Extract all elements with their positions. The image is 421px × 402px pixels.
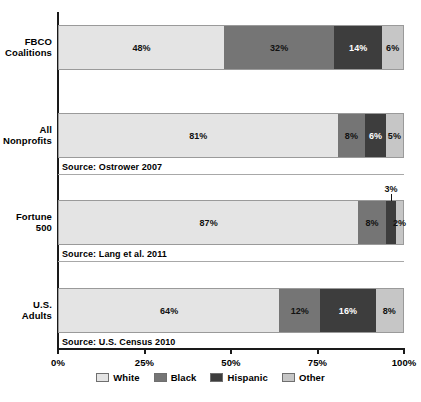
legend-label: Black <box>171 372 197 383</box>
stacked-bar-4: 64%12%16%8% <box>58 288 404 333</box>
row-label-2: AllNonprofits <box>0 124 52 147</box>
x-axis-tick-label: 50% <box>221 357 240 368</box>
stacked-bar-1: 48%32%14%6% <box>58 25 404 70</box>
row-label-line1: U.S. <box>0 299 52 311</box>
segment-value-label: 16% <box>339 306 357 316</box>
segment-value-label: 6% <box>386 43 399 53</box>
bar-segment-black: 8% <box>358 201 386 244</box>
x-axis-tick-label: 25% <box>135 357 154 368</box>
segment-value-label: 64% <box>160 306 178 316</box>
source-note: Source: U.S. Census 2010 <box>62 337 175 347</box>
segment-value-label: 8% <box>365 218 378 228</box>
bar-segment-white: 48% <box>59 26 224 69</box>
segment-value-label: 14% <box>349 43 367 53</box>
row-label-1: FBCOCoalitions <box>0 36 52 59</box>
legend-swatch-icon <box>96 373 109 382</box>
bar-segment-white: 81% <box>59 114 338 157</box>
legend-label: Other <box>299 372 325 383</box>
legend-item-other[interactable]: Other <box>282 372 325 383</box>
bar-segment-black: 12% <box>279 289 320 332</box>
segment-value-label: 87% <box>199 218 217 228</box>
row-label-line2: Nonprofits <box>0 135 52 147</box>
legend-item-white[interactable]: White <box>96 372 139 383</box>
x-axis-tick-label: 75% <box>308 357 327 368</box>
row-label-line2: 500 <box>0 222 52 234</box>
legend-swatch-icon <box>154 373 167 382</box>
segment-value-label: 8% <box>383 306 396 316</box>
row-label-4: U.S.Adults <box>0 299 52 322</box>
x-axis-end-cap <box>403 348 405 354</box>
segment-callout-label: 3% <box>384 184 397 194</box>
segment-value-label: 2% <box>393 218 406 228</box>
legend-swatch-icon <box>210 373 223 382</box>
bar-segment-white: 64% <box>59 289 279 332</box>
source-note: Source: Ostrower 2007 <box>62 162 162 172</box>
segment-value-label: 12% <box>291 306 309 316</box>
x-axis-tick-label: 100% <box>392 357 417 368</box>
bar-segment-other: 6% <box>382 26 403 69</box>
bar-segment-black: 8% <box>338 114 366 157</box>
source-divider <box>58 261 404 262</box>
legend-item-hispanic[interactable]: Hispanic <box>210 372 267 383</box>
x-axis-tick <box>144 348 146 354</box>
segment-value-label: 81% <box>189 131 207 141</box>
legend-item-black[interactable]: Black <box>154 372 197 383</box>
legend-label: White <box>113 372 139 383</box>
segment-value-label: 8% <box>345 131 358 141</box>
legend-swatch-icon <box>282 373 295 382</box>
bar-segment-hispanic: 14% <box>334 26 382 69</box>
x-axis-tick <box>230 348 232 354</box>
stacked-bar-3: 87%8%3%2% <box>58 200 404 245</box>
x-axis-end-cap <box>57 348 59 354</box>
bar-segment-black: 32% <box>224 26 334 69</box>
bar-segment-other: 2% <box>396 201 403 244</box>
source-divider <box>58 174 404 175</box>
row-label-line1: All <box>0 124 52 136</box>
segment-value-label: 5% <box>388 131 401 141</box>
stacked-bar-2: 81%8%6%5% <box>58 113 404 158</box>
callout-leader-line <box>391 194 392 201</box>
row-label-line2: Adults <box>0 310 52 322</box>
figure-caption <box>8 392 413 402</box>
bar-segment-other: 8% <box>376 289 404 332</box>
row-label-3: Fortune500 <box>0 211 52 234</box>
source-note: Source: Lang et al. 2011 <box>62 249 167 259</box>
bar-segment-hispanic: 16% <box>320 289 375 332</box>
bar-segment-white: 87% <box>59 201 358 244</box>
bar-segment-other: 5% <box>386 114 403 157</box>
segment-value-label: 48% <box>132 43 150 53</box>
legend-label: Hispanic <box>227 372 267 383</box>
segment-value-label: 6% <box>369 131 382 141</box>
segment-value-label: 32% <box>270 43 288 53</box>
x-axis-tick <box>317 348 319 354</box>
stacked-bar-chart: FBCOCoalitions48%32%14%6%AllNonprofits81… <box>0 0 421 402</box>
x-axis-tick-label: 0% <box>51 357 65 368</box>
row-label-line1: Fortune <box>0 211 52 223</box>
bar-segment-hispanic: 6% <box>365 114 386 157</box>
chart-legend: WhiteBlackHispanicOther <box>0 372 421 383</box>
row-label-line1: FBCO <box>0 36 52 48</box>
row-label-line2: Coalitions <box>0 47 52 59</box>
